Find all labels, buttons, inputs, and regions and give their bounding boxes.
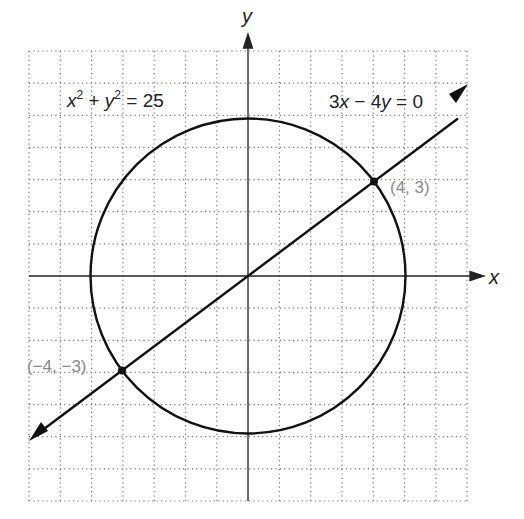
point-4-3 (370, 178, 378, 186)
eq-op: − 4 (349, 91, 381, 112)
eq-var-x: x (67, 90, 77, 111)
eq-coef: 3 (329, 91, 340, 112)
circle-equation-label: x2 + y2 = 25 (67, 89, 164, 110)
x-axis-label: x (489, 267, 499, 287)
graph-canvas (0, 0, 524, 519)
line-equation-label: 3x − 4y = 0 (329, 92, 423, 111)
eq-var-y: y (381, 91, 391, 112)
x-axis-arrow-icon (470, 272, 484, 281)
line-arrow-down-icon (29, 422, 48, 441)
eq-var-x: x (340, 91, 350, 112)
eq-var-y: y (105, 90, 115, 111)
point-neg4-neg3 (118, 367, 126, 375)
point-label-4-3: (4, 3) (390, 179, 430, 196)
eq-rhs: = 25 (121, 90, 164, 111)
eq-rhs: = 0 (391, 91, 423, 112)
y-axis-label: y (242, 6, 252, 26)
point-label-neg4-neg3: (−4, −3) (27, 358, 87, 375)
y-axis-arrow-icon (244, 34, 253, 48)
line-arrow-up-icon (449, 84, 468, 103)
eq-op: + (83, 90, 105, 111)
